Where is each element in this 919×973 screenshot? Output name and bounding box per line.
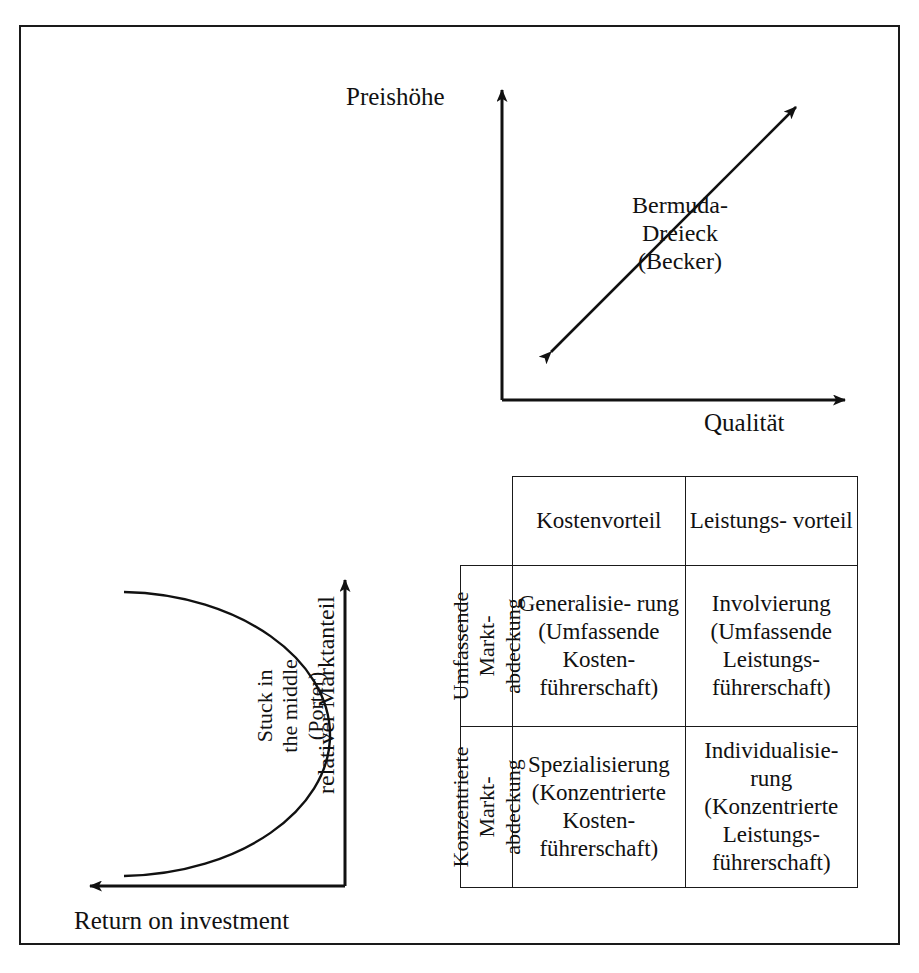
figure-page: Preishöhe Qualität Bermuda- Dreieck (Bec… — [0, 0, 919, 973]
matrix-row-header-text: Konzentrierte Markt- abdeckung — [448, 747, 526, 868]
return-on-investment-axis-label: Return on investment — [74, 906, 289, 935]
price-axis-label: Preishöhe — [346, 82, 445, 111]
matrix-col-header-kostenvorteil: Kostenvorteil — [513, 477, 685, 566]
table-row: Konzentrierte Markt- abdeckung Spezialis… — [461, 727, 858, 888]
matrix-cell-spezialisierung: Spezialisierung (Konzentrierte Kosten- f… — [513, 727, 685, 888]
matrix-cell-involvierung: Involvierung (Umfassende Leistungs- führ… — [685, 566, 857, 727]
stuck-in-the-middle-label: Stuck in the middle (Porter) — [252, 659, 328, 752]
matrix-row-header-umfassende-marktabdeckung: Umfassende Markt- abdeckung — [461, 566, 513, 727]
matrix-row-header-text: Umfassende Markt- abdeckung — [448, 592, 526, 701]
matrix-header-row: Kostenvorteil Leistungs- vorteil — [461, 477, 858, 566]
matrix-cell-individualisierung: Individualisie- rung (Konzentrierte Leis… — [685, 727, 857, 888]
matrix-row-header-konzentrierte-marktabdeckung: Konzentrierte Markt- abdeckung — [461, 727, 513, 888]
table-row: Umfassende Markt- abdeckung Generalisie-… — [461, 566, 858, 727]
bermuda-dreieck-annotation: Bermuda- Dreieck (Becker) — [632, 192, 728, 275]
matrix-cell-generalisierung: Generalisie- rung (Umfassende Kosten- fü… — [513, 566, 685, 727]
competitive-advantage-matrix: Kostenvorteil Leistungs- vorteil Umfasse… — [460, 476, 858, 887]
quality-axis-label: Qualität — [704, 408, 785, 437]
matrix-col-header-leistungsvorteil: Leistungs- vorteil — [685, 477, 857, 566]
matrix-corner-cell — [461, 477, 513, 566]
